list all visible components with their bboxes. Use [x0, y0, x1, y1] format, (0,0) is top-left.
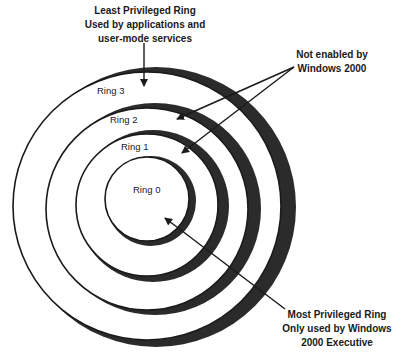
- ring-1-label: Ring 1: [121, 141, 148, 152]
- most-callout-line2: Only used by Windows: [282, 322, 392, 336]
- most-privileged-callout: Most Privileged Ring Only used by Window…: [282, 308, 392, 350]
- not-enabled-line1: Not enabled by: [292, 48, 372, 62]
- ring-3-label: Ring 3: [97, 85, 124, 96]
- least-privileged-callout: Least Privileged Ring Used by applicatio…: [82, 4, 208, 46]
- not-enabled-callout: Not enabled by Windows 2000: [292, 48, 372, 76]
- not-enabled-line2: Windows 2000: [292, 62, 372, 76]
- ring-0-label: Ring 0: [133, 184, 160, 195]
- most-callout-line1: Most Privileged Ring: [282, 308, 392, 322]
- least-callout-line1: Least Privileged Ring: [82, 4, 208, 18]
- ring-2-label: Ring 2: [110, 114, 137, 125]
- most-callout-line3: 2000 Executive: [282, 336, 392, 350]
- least-callout-line3: user-mode services: [82, 32, 208, 46]
- least-callout-line2: Used by applications and: [82, 18, 208, 32]
